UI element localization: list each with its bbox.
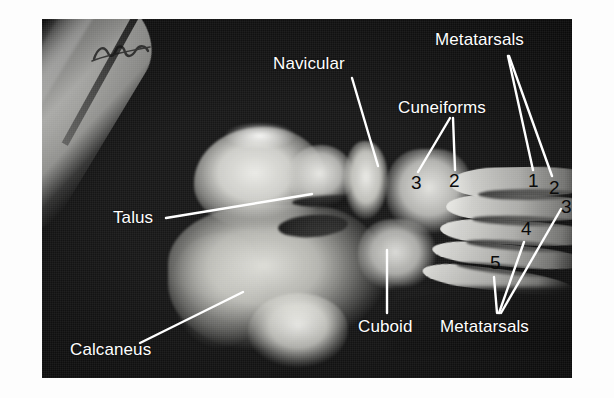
label-navicular: Navicular [273, 54, 345, 74]
label-talus: Talus [113, 208, 153, 228]
film-marking-icon [90, 41, 152, 67]
calcaneal-tuberosity [248, 293, 348, 371]
number-metatarsal-3: 3 [561, 196, 572, 218]
label-cuneiforms: Cuneiforms [398, 98, 486, 118]
number-metatarsal-5: 5 [490, 252, 501, 274]
number-metatarsal-2: 2 [549, 177, 560, 199]
label-cuboid: Cuboid [358, 317, 412, 337]
label-metatarsals-top: Metatarsals [435, 30, 524, 50]
label-metatarsals-bottom: Metatarsals [440, 317, 529, 337]
talar-dome-highlight [212, 123, 308, 155]
navicular-bone [344, 141, 388, 219]
xray-figure: Navicular Metatarsals Cuneiforms Talus C… [0, 0, 614, 398]
number-metatarsal-1: 1 [528, 170, 539, 192]
number-cuneiform-3: 3 [411, 172, 422, 194]
label-calcaneus: Calcaneus [70, 340, 151, 360]
number-cuneiform-2: 2 [449, 170, 460, 192]
number-metatarsal-4: 4 [521, 218, 532, 240]
